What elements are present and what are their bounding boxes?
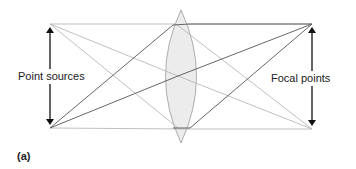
panel-label: (a) xyxy=(17,150,30,162)
convex-lens xyxy=(166,10,197,143)
focal-points-label: Focal points xyxy=(271,71,330,86)
point-sources-label: Point sources xyxy=(18,69,85,84)
